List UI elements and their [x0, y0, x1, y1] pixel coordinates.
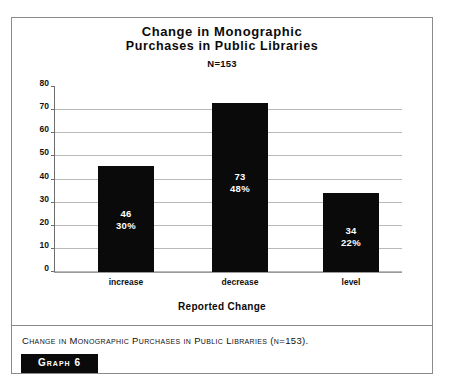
bar-data-label: 3422%: [323, 225, 379, 249]
bar-value: 73: [212, 171, 268, 183]
chart-panel: Change in Monographic Purchases in Publi…: [12, 18, 432, 326]
chart-subtitle: N=153: [12, 58, 432, 69]
bar-value: 46: [98, 208, 154, 220]
bar-percent: 30%: [98, 220, 154, 232]
bar-data-label: 4630%: [98, 208, 154, 232]
chart-title: Change in Monographic Purchases in Publi…: [12, 24, 432, 54]
y-axis-tick-mark: [51, 179, 55, 180]
chart-title-line-2: Purchases in Public Libraries: [12, 39, 432, 54]
bar-percent: 48%: [212, 183, 268, 195]
x-axis-category-label: increase: [76, 277, 176, 287]
y-axis-tick-label: 10: [9, 240, 49, 250]
y-axis-tick-label: 40: [9, 171, 49, 181]
figure-caption: Change in Monographic Purchases in Publi…: [22, 335, 309, 346]
y-axis-tick-mark: [51, 248, 55, 249]
bar-data-label: 7348%: [212, 171, 268, 195]
y-axis-tick-mark: [51, 225, 55, 226]
bar[interactable]: 3422%: [323, 193, 379, 272]
y-axis-tick-mark: [51, 202, 55, 203]
y-axis-tick-label: 60: [9, 124, 49, 134]
y-axis-tick-mark: [51, 86, 55, 87]
y-axis-tick-mark: [51, 271, 55, 272]
plot-area: 01020304050607080 4630%7348%3422% increa…: [55, 87, 402, 272]
caption-panel: Change in Monographic Purchases in Publi…: [12, 326, 432, 373]
y-axis-tick-mark: [51, 155, 55, 156]
y-axis-tick-label: 50: [9, 147, 49, 157]
y-axis-line: [54, 87, 55, 273]
chart-title-line-1: Change in Monographic: [12, 24, 432, 39]
x-axis-line: [54, 272, 402, 273]
bar-percent: 22%: [323, 237, 379, 249]
x-axis-category-label: decrease: [190, 277, 290, 287]
y-axis-tick-label: 80: [9, 78, 49, 88]
y-axis-tick-label: 20: [9, 217, 49, 227]
y-axis-tick-mark: [51, 109, 55, 110]
bar-value: 34: [323, 225, 379, 237]
graph-number-badge: Graph 6: [21, 354, 98, 373]
bar[interactable]: 7348%: [212, 103, 268, 272]
y-axis-tick-label: 30: [9, 194, 49, 204]
y-axis-tick-mark: [51, 132, 55, 133]
figure-container: Change in Monographic Purchases in Publi…: [11, 17, 433, 374]
y-axis-tick-label: 0: [9, 263, 49, 273]
x-axis-category-label: level: [301, 277, 401, 287]
bar[interactable]: 4630%: [98, 166, 154, 272]
y-axis-tick-label: 70: [9, 101, 49, 111]
x-axis-title: Reported Change: [12, 301, 432, 312]
